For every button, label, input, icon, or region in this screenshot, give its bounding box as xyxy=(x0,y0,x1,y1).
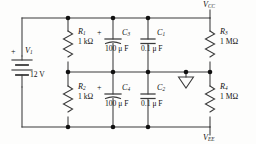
label-r1-value: 1 kΩ xyxy=(78,38,93,46)
label-r3-value: 1 MΩ xyxy=(220,38,238,46)
label-r3-reference: R3 xyxy=(220,28,228,36)
label-c3-value: 100 μ F xyxy=(105,45,128,53)
node-bot-c2 xyxy=(146,125,151,130)
vcc-sub: CC xyxy=(208,3,215,9)
node-top-c3 xyxy=(111,16,116,21)
c3-polarity-plus: + xyxy=(97,29,102,37)
node-mid-c1c2 xyxy=(146,70,151,75)
node-mid-ground xyxy=(184,70,189,75)
label-r4-value: 1 MΩ xyxy=(220,93,238,101)
label-r2-value: 1 kΩ xyxy=(78,93,93,101)
ground-triangle xyxy=(179,77,194,88)
resistor-r4-zigzag xyxy=(205,86,214,112)
vee-sub: EE xyxy=(208,136,214,142)
r4-sub: 4 xyxy=(225,85,228,91)
node-mid-r3r4 xyxy=(208,70,213,75)
label-r4-reference: R4 xyxy=(220,83,228,91)
node-bot-r2 xyxy=(66,125,71,130)
schematic-canvas: + V1 12 V R1 1 kΩ R2 1 kΩ + C3 100 μ F C… xyxy=(0,0,256,144)
label-c1-reference: C1 xyxy=(157,29,165,37)
source-reference: V1 xyxy=(25,47,33,55)
node-mid-c3c4 xyxy=(111,70,116,75)
r3-sub: 3 xyxy=(225,30,228,36)
c4-polarity-plus: + xyxy=(97,84,102,92)
label-c2-reference: C2 xyxy=(157,84,165,92)
label-r1-reference: R1 xyxy=(78,28,86,36)
resistor-r3-zigzag xyxy=(205,31,214,57)
label-c2-value: 0.1 μ F xyxy=(141,100,163,108)
source-reference-sub: 1 xyxy=(30,49,33,55)
c1-sub: 1 xyxy=(162,31,165,37)
source-polarity-plus: + xyxy=(11,48,16,56)
node-bot-c4 xyxy=(111,125,116,130)
c3-sub: 3 xyxy=(127,31,130,37)
r2-sub: 2 xyxy=(83,85,86,91)
node-top-c1 xyxy=(146,16,151,21)
source-value: 12 V xyxy=(30,71,45,79)
c2-sub: 2 xyxy=(162,86,165,92)
label-c1-value: 0.1 μ F xyxy=(141,45,163,53)
resistor-r2-zigzag xyxy=(63,86,72,112)
label-c3-reference: C3 xyxy=(122,29,130,37)
node-top-r1 xyxy=(66,16,71,21)
resistor-r1-zigzag xyxy=(63,31,72,57)
label-vee: VEE xyxy=(203,134,215,142)
r1-sub: 1 xyxy=(83,30,86,36)
label-r2-reference: R2 xyxy=(78,83,86,91)
node-mid-r1r2 xyxy=(66,70,71,75)
c4-sub: 4 xyxy=(127,86,130,92)
label-vcc: VCC xyxy=(203,1,215,9)
label-c4-reference: C4 xyxy=(122,84,130,92)
label-c4-value: 100 μ F xyxy=(105,100,128,108)
